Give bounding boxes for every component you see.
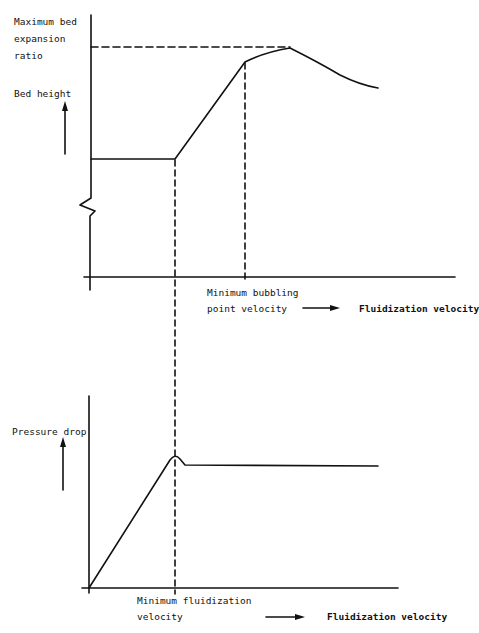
min-bubbling-label-line-2: point velocity — [207, 301, 287, 317]
pressure-drop-curve — [89, 456, 378, 588]
bed-height-label: Bed height — [14, 86, 71, 102]
max-expansion-label-line-3: ratio — [14, 48, 43, 64]
arrows — [63, 105, 335, 617]
min-bubbling-label-line-1: Minimum bubbling — [207, 285, 299, 301]
top-chart — [80, 15, 455, 290]
bed-height-curve — [91, 48, 378, 159]
pressure-drop-label: Pressure drop — [12, 424, 86, 440]
bottom-chart — [82, 396, 398, 593]
top-x-axis-label: Fluidization velocity — [359, 301, 479, 317]
max-expansion-label-line-2: expansion — [14, 31, 65, 47]
min-fluidization-label-line-2: velocity — [137, 609, 183, 625]
top-y-axis — [80, 15, 95, 290]
max-expansion-label-line-1: Maximum bed — [14, 14, 77, 30]
bottom-x-axis-label: Fluidization velocity — [327, 609, 447, 625]
min-fluidization-label-line-1: Minimum fluidization — [137, 593, 251, 609]
